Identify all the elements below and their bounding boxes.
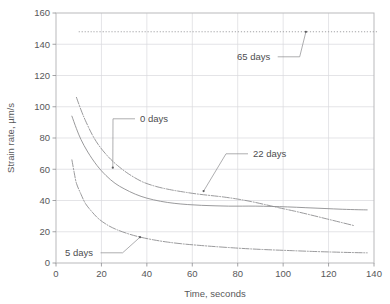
annotation-label-65-days: 65 days bbox=[237, 51, 271, 62]
chart-container: 020406080100120140 020406080100120140160… bbox=[0, 0, 390, 304]
y-tick-label: 80 bbox=[39, 132, 50, 143]
x-tick-label: 0 bbox=[53, 268, 58, 279]
annotation-point-5-days bbox=[139, 236, 141, 238]
x-axis-tick-marks bbox=[56, 263, 374, 267]
annotation-label-5-days: 5 days bbox=[65, 247, 93, 258]
y-tick-label: 40 bbox=[39, 195, 50, 206]
annotation-point-22-days bbox=[203, 190, 205, 192]
annotation-label-0-days: 0 days bbox=[140, 113, 168, 124]
annotation-point-65-days bbox=[305, 31, 307, 33]
x-tick-label: 80 bbox=[232, 268, 243, 279]
y-tick-label: 0 bbox=[45, 257, 50, 268]
y-tick-label: 120 bbox=[34, 70, 50, 81]
strain-rate-vs-time-chart: 020406080100120140 020406080100120140160… bbox=[0, 0, 390, 304]
y-tick-label: 20 bbox=[39, 226, 50, 237]
annotation-point-0-days bbox=[112, 167, 114, 169]
y-tick-label: 100 bbox=[34, 101, 50, 112]
x-tick-label: 120 bbox=[321, 268, 337, 279]
y-axis-tick-labels: 020406080100120140160 bbox=[34, 7, 50, 268]
x-tick-label: 20 bbox=[96, 268, 107, 279]
y-axis-title: Strain rate, µm/s bbox=[5, 103, 16, 173]
y-tick-label: 60 bbox=[39, 164, 50, 175]
y-tick-label: 140 bbox=[34, 39, 50, 50]
x-tick-label: 140 bbox=[366, 268, 382, 279]
y-axis-tick-marks bbox=[53, 13, 57, 263]
x-tick-label: 100 bbox=[275, 268, 291, 279]
x-axis-tick-labels: 020406080100120140 bbox=[53, 268, 382, 279]
x-tick-label: 60 bbox=[187, 268, 198, 279]
y-tick-label: 160 bbox=[34, 7, 50, 18]
x-axis-title: Time, seconds bbox=[184, 288, 246, 299]
annotation-label-22-days: 22 days bbox=[253, 148, 287, 159]
x-tick-label: 40 bbox=[142, 268, 153, 279]
